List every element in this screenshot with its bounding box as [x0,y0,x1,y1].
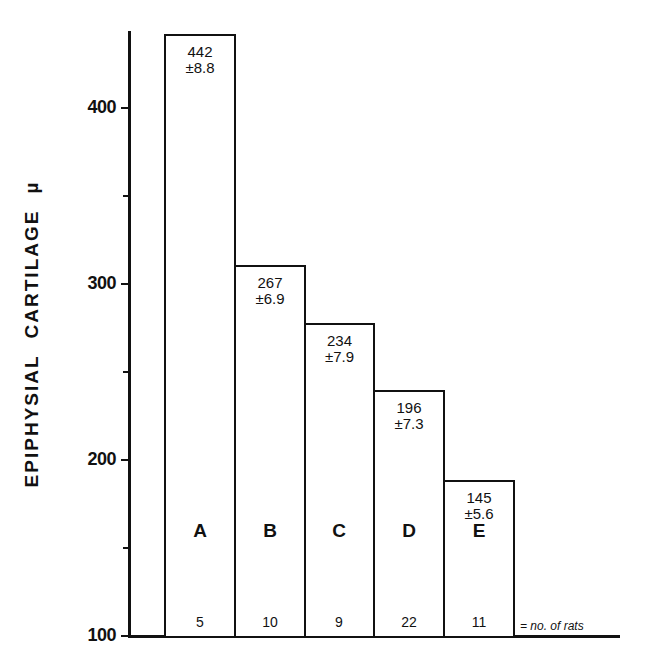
bar-c-mean: 234 [327,332,352,349]
category-label-a: A [165,520,235,542]
bar-d-value: 196 ±7.3 [375,400,443,432]
bar-c: 234 ±7.9 [304,323,375,636]
bar-b-value: 267 ±6.9 [236,275,304,307]
bar-a-value: 442 ±8.8 [166,44,234,76]
y-minor-tick-150 [123,547,129,549]
y-tick-label-100: 100 [56,625,116,646]
n-rats-d: 22 [374,614,444,630]
bar-d-mean: 196 [396,399,421,416]
y-axis-label: EPIPHYSIALCARTILAGEµ [21,181,43,488]
bar-a-mean: 442 [187,43,212,60]
category-label-c: C [304,520,374,542]
bar-d: 196 ±7.3 [373,390,445,636]
category-label-d: D [374,520,444,542]
y-tick-label-400: 400 [56,97,116,118]
n-rats-a: 5 [165,614,235,630]
y-tick-200 [121,459,129,461]
n-rats-b: 10 [235,614,305,630]
y-minor-tick-250 [123,371,129,373]
n-rats-c: 9 [304,614,374,630]
y-tick-label-300: 300 [56,273,116,294]
bar-b: 267 ±6.9 [234,265,306,636]
category-label-b: B [235,520,305,542]
n-rats-legend-note: = no. of rats [520,619,584,633]
bar-c-error: ±7.9 [306,349,373,365]
y-tick-300 [121,283,129,285]
bar-e-mean: 145 [466,489,491,506]
bar-b-error: ±6.9 [236,291,304,307]
bar-d-error: ±7.3 [375,416,443,432]
y-tick-400 [121,107,129,109]
bar-a: 442 ±8.8 [164,34,236,636]
y-minor-tick-350 [123,195,129,197]
n-rats-e: 11 [444,614,514,630]
bar-e-value: 145 ±5.6 [445,490,513,522]
y-tick-100 [121,635,129,637]
y-axis-label-unit: µ [21,181,42,194]
category-label-e: E [444,520,514,542]
y-axis-label-word-1: EPIPHYSIAL [21,354,42,487]
bar-c-value: 234 ±7.9 [306,333,373,365]
y-axis-label-word-2: CARTILAGE [21,210,42,339]
bar-e: 145 ±5.6 [443,480,515,636]
y-tick-label-200: 200 [56,449,116,470]
bar-b-mean: 267 [257,274,282,291]
bar-a-error: ±8.8 [166,60,234,76]
